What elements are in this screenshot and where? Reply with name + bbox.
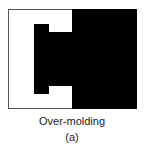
figure-caption: Over-molding xyxy=(0,115,144,127)
right-mold-block xyxy=(72,9,137,109)
inner-insert-left xyxy=(34,24,49,94)
inner-insert-middle xyxy=(49,32,72,86)
figure-label: (a) xyxy=(0,131,144,143)
